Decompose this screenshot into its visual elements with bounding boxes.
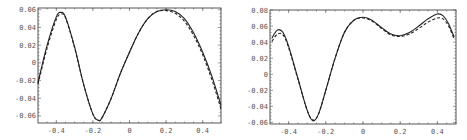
y-tick-label: 0.06: [19, 6, 36, 14]
y-tick-label: -0.02: [247, 87, 268, 95]
x-tick-label: -0.2: [317, 128, 334, 136]
y-tick-label: 0: [32, 59, 36, 67]
solid-curve-right: [272, 14, 454, 121]
x-tick-label: 0: [361, 128, 365, 136]
line-plot-left: 0.060.040.020-0.02-0.04-0.06-0.4-0.200.2…: [0, 0, 233, 140]
x-tick-label: 0: [127, 127, 131, 135]
y-tick-label: 0.02: [19, 42, 36, 50]
x-tick-label: -0.4: [280, 128, 297, 136]
line-plot-right: 0.080.060.040.020-0.02-0.04-0.06-0.4-0.2…: [233, 0, 467, 140]
y-tick-label: 0.04: [19, 24, 36, 32]
y-tick-label: -0.06: [15, 112, 36, 120]
y-tick-label: 0.08: [251, 7, 268, 15]
dashed-curve-right: [272, 18, 454, 120]
x-tick-label: 0.2: [394, 128, 407, 136]
y-tick-label: 0.06: [251, 23, 268, 31]
x-tick-label: 0.4: [196, 127, 209, 135]
plot-frame: [270, 10, 456, 124]
chart-left: 0.060.040.020-0.02-0.04-0.06-0.4-0.200.2…: [0, 0, 233, 140]
x-tick-label: 0.2: [160, 127, 173, 135]
x-tick-label: -0.2: [84, 127, 101, 135]
solid-curve-left: [38, 10, 221, 121]
y-tick-label: -0.02: [15, 77, 36, 85]
dashed-curve-left: [38, 10, 221, 120]
plot-frame: [38, 8, 221, 123]
x-tick-label: -0.4: [48, 127, 65, 135]
y-tick-label: -0.04: [15, 95, 36, 103]
y-tick-label: 0: [264, 71, 268, 79]
chart-right: 0.080.060.040.020-0.02-0.04-0.06-0.4-0.2…: [233, 0, 467, 140]
y-tick-label: 0.04: [251, 39, 268, 47]
x-tick-label: 0.4: [431, 128, 444, 136]
y-tick-label: -0.06: [247, 119, 268, 127]
y-tick-label: 0.02: [251, 55, 268, 63]
y-tick-label: -0.04: [247, 103, 268, 111]
